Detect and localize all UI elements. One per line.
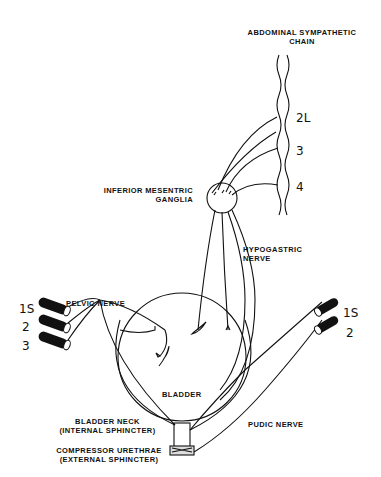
segment-1S-right: 1S bbox=[343, 307, 358, 320]
label-compressor-urethrae: COMPRESSOR URETHRAE (EXTERNAL SPHINCTER) bbox=[53, 446, 165, 464]
segment-2L: 2L bbox=[296, 112, 310, 125]
label-line: COMPRESSOR URETHRAE bbox=[53, 446, 165, 455]
label-line: ABDOMINAL SYMPATHETIC bbox=[232, 28, 372, 37]
label-line: INFERIOR MESENTRIC bbox=[98, 186, 193, 195]
segment-3: 3 bbox=[296, 145, 304, 158]
label-line: GANGLIA bbox=[98, 195, 193, 204]
label-bladder-neck: BLADDER NECK (INTERNAL SPHINCTER) bbox=[55, 417, 160, 435]
segment-1S-left: 1S bbox=[19, 303, 34, 316]
label-bladder: BLADDER bbox=[162, 390, 201, 399]
label-hypogastric-nerve: HYPOGASTRIC NERVE bbox=[243, 245, 302, 263]
label-line: (EXTERNAL SPHINCTER) bbox=[53, 455, 165, 464]
bladder-neck bbox=[174, 423, 190, 447]
segment-2-right: 2 bbox=[346, 327, 354, 340]
nerve-diagram bbox=[0, 0, 381, 477]
sympathetic-chain-left bbox=[277, 55, 281, 215]
sacral-roots-left bbox=[37, 296, 69, 350]
inferior-mesentric-ganglia bbox=[207, 183, 237, 213]
label-line: NERVE bbox=[243, 254, 302, 263]
label-pudic-nerve: PUDIC NERVE bbox=[248, 420, 304, 429]
label-line: BLADDER NECK bbox=[55, 417, 160, 426]
segment-2-left: 2 bbox=[22, 321, 30, 334]
label-pelvic-nerve: PELVIC NERVE bbox=[66, 299, 125, 308]
label-line: (INTERNAL SPHINCTER) bbox=[55, 426, 160, 435]
segment-3-left: 3 bbox=[22, 340, 30, 353]
label-line: HYPOGASTRIC bbox=[243, 245, 302, 254]
label-sympathetic-chain: ABDOMINAL SYMPATHETIC CHAIN bbox=[232, 28, 372, 46]
sympathetic-chain-right bbox=[285, 55, 289, 215]
label-line: CHAIN bbox=[232, 37, 372, 46]
label-ganglia: INFERIOR MESENTRIC GANGLIA bbox=[98, 186, 193, 204]
segment-4: 4 bbox=[296, 181, 304, 194]
